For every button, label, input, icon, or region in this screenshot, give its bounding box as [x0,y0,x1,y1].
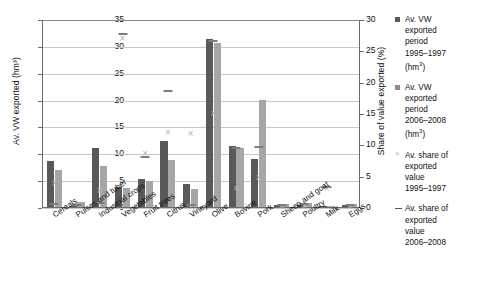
legend-item[interactable]: Av. VWexportedperiod1995–1997(hm3) [395,14,490,73]
y-tick-label-right: 25 [366,46,388,55]
legend-item[interactable]: Av. share ofexportedvalue2006–2008 [395,203,490,248]
category-group [179,19,202,207]
y-tick-label-right: 15 [366,109,388,118]
marker-share-2006-2008 [163,90,172,92]
category-group [66,19,89,207]
marker-share-2006-2008 [50,203,59,205]
bar-vw-1995-1997 [229,146,236,207]
legend-item-label: Av. share ofexportedvalue2006–2008 [405,204,448,247]
legend-item[interactable]: ×Av. share ofexportedvalue1995–1997 [395,150,490,195]
bar-vw-2006-2008 [259,100,266,207]
category-group [270,19,293,207]
category-group [225,19,248,207]
category-group [134,19,157,207]
legend-item-label: Av. share ofexportedvalue1995–1997 [405,151,448,194]
marker-share-1995-1997: × [51,179,57,189]
marker-share-2006-2008 [186,204,195,206]
marker-share-2006-2008 [345,204,354,206]
dash-mark-icon [395,208,402,209]
square-light-icon [395,85,400,90]
marker-share-1995-1997: × [233,184,239,194]
chart-legend: Av. VWexportedperiod1995–1997(hm3)Av. VW… [395,14,490,257]
marker-share-1995-1997: × [188,129,194,139]
bar-vw-2006-2008 [214,43,221,207]
legend-item-label: Av. VWexportedperiod2006–2008(hm3) [405,83,446,140]
plot-area: ×××××××××××××× [42,20,360,208]
marker-share-1995-1997: × [165,128,171,138]
marker-share-2006-2008 [141,156,150,158]
marker-share-2006-2008 [232,147,241,149]
legend-item-label: Av. VWexportedperiod1995–1997(hm3) [405,15,446,72]
y-tick-label-right: 30 [366,15,388,24]
category-group [88,19,111,207]
bar-vw-1995-1997 [206,39,213,207]
y-tick-label-right: 5 [366,172,388,181]
marker-share-2006-2008 [254,146,263,148]
category-group [338,19,361,207]
category-group [293,19,316,207]
marker-share-2006-2008 [118,33,127,35]
y-tick-label-right: 10 [366,140,388,149]
category-group [157,19,180,207]
marker-share-1995-1997: × [256,173,262,183]
legend-item[interactable]: Av. VWexportedperiod2006–2008(hm3) [395,82,490,141]
square-dark-icon [395,17,400,22]
marker-share-2006-2008 [277,204,286,206]
y-axis-left-title: Av. VW exported (hm³) [11,41,21,161]
chart-figure: Av. VW exported (hm³) Share of value exp… [0,0,490,294]
category-group [316,19,339,207]
bar-vw-2006-2008 [55,170,62,207]
y-tick-label-right: 0 [366,203,388,212]
x-mark-icon: × [395,151,400,156]
y-tick-label-right: 20 [366,78,388,87]
bar-vw-2006-2008 [236,148,243,207]
marker-share-1995-1997: × [210,109,216,119]
y-tick-mark-left [38,208,42,209]
marker-share-2006-2008 [209,40,218,42]
